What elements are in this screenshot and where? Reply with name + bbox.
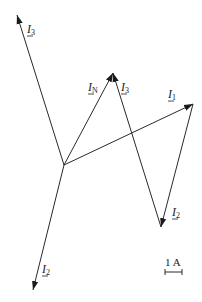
svg-text:I2: I2 [171,205,180,220]
vector-i1-chain [64,104,193,165]
scale-label: 1 A [165,256,181,268]
vector-i2-chain [161,104,193,227]
label-i3-chain: I3 [120,80,129,95]
svg-text:IN: IN [87,80,98,95]
svg-text:I3: I3 [120,80,129,95]
scale-bar: 1 A [165,256,182,275]
label-i2-chain: I2 [171,205,180,220]
svg-text:I1: I1 [167,87,176,102]
phasor-diagram: I3 I2 I1 I2 I3 IN 1 A [0,0,202,302]
label-in-resultant: IN [87,80,98,95]
vector-i3-standalone [17,15,64,165]
label-i1-chain: I1 [167,87,176,102]
label-i2-standalone: I2 [41,262,50,277]
label-i3-standalone: I3 [26,22,35,37]
svg-text:I2: I2 [41,262,50,277]
svg-text:I3: I3 [26,22,35,37]
vector-i3-chain [113,73,161,227]
